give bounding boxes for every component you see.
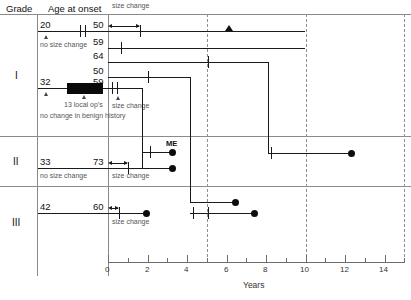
row-6-event-dot	[169, 149, 176, 156]
gridline-year-5	[207, 14, 208, 262]
x-minor-tick-7	[246, 258, 247, 262]
row-1-pre-tick-a	[80, 25, 81, 37]
row-1-size-change-arrow	[110, 26, 139, 27]
timeline-chart: Grade Age at onset I II III 20 50 no siz…	[0, 0, 411, 300]
x-tick-4	[187, 255, 188, 262]
row-5-local-operations-bar	[67, 83, 103, 94]
grade-separator-i-ii	[0, 136, 411, 137]
row-4-second-age: 50	[93, 65, 104, 76]
x-tick-label-6: 6	[224, 265, 228, 274]
grade-separator-top	[0, 14, 411, 15]
x-minor-tick-15	[404, 258, 405, 262]
row-5-onset-age: 32	[40, 76, 51, 87]
row-5-pre-tick-a	[112, 82, 113, 94]
row-9-followup-line	[190, 202, 233, 203]
age-column-header: Age at onset	[48, 3, 101, 14]
x-tick-10	[306, 255, 307, 262]
grade-label-i: I	[15, 70, 18, 81]
row-5-ops-arrow-icon	[82, 95, 86, 99]
x-tick-label-0: 0	[105, 265, 109, 274]
x-tick-6	[227, 255, 228, 262]
row-11-tick	[193, 207, 194, 219]
x-tick-label-2: 2	[145, 265, 149, 274]
row-3-drop-line	[268, 62, 269, 154]
row-10-event-dot	[143, 210, 150, 217]
x-minor-tick-13	[365, 258, 366, 262]
x-tick-label-4: 4	[184, 265, 188, 274]
row-1-onset-age: 20	[40, 19, 51, 30]
x-tick-2	[148, 255, 149, 262]
row-2-post-tick	[121, 42, 122, 54]
row-1-note-arrow-icon	[44, 35, 48, 39]
x-minor-tick-5	[207, 258, 208, 262]
x-minor-tick-1	[128, 258, 129, 262]
row-8-tick	[271, 147, 272, 159]
row-1-age-line	[38, 31, 108, 32]
row-3-post-tick	[208, 56, 209, 68]
row-1-pre-tick-b	[85, 25, 86, 37]
row-3-followup-line	[108, 62, 269, 63]
row-5-pre-tick-b	[117, 82, 118, 94]
row-5-followup-line	[108, 88, 142, 89]
x-minor-tick-3	[167, 258, 168, 262]
row-4-drop-line	[190, 77, 191, 202]
row-2-second-age: 59	[93, 36, 104, 47]
x-axis-line	[108, 262, 405, 263]
row-4-followup-line	[108, 77, 190, 78]
row-5-note: no change in benign history	[40, 112, 106, 120]
row-10-size-change-arrowhead-left	[108, 206, 112, 210]
grade-label-ii: II	[13, 156, 19, 167]
row-7-age-line	[38, 168, 108, 169]
row-10-second-age: 60	[93, 201, 104, 212]
row-5-note-arrow-icon	[44, 92, 48, 96]
size-change-label-2: size change	[112, 102, 146, 110]
x-tick-label-12: 12	[340, 265, 349, 274]
x-tick-12	[345, 255, 346, 262]
row-4-post-tick	[148, 71, 149, 83]
size-change-label-4: size change	[112, 218, 146, 226]
gridline-year-10	[306, 14, 307, 262]
x-tick-label-14: 14	[379, 265, 388, 274]
row-1-post-tick	[140, 25, 141, 37]
x-tick-label-10: 10	[300, 265, 309, 274]
size-change-label-3: size change	[112, 172, 146, 180]
row-10-followup-line	[108, 213, 146, 214]
me-label: ME	[166, 139, 177, 148]
row-8-followup-line	[268, 153, 349, 154]
size-change-label-1: size change	[112, 2, 144, 10]
grade-column-divider	[37, 14, 38, 276]
row-5-size-change-arrow-icon	[116, 96, 120, 100]
x-axis-title: Years	[243, 280, 264, 290]
grade-label-iii: III	[12, 217, 20, 228]
row-7-followup-line	[108, 168, 173, 169]
row-11-followup-line	[190, 213, 252, 214]
age-column-divider	[108, 14, 109, 276]
row-1-followup-line	[108, 31, 305, 32]
row-1-size-change-arrowhead-left	[108, 24, 112, 28]
row-7-second-age: 73	[93, 156, 104, 167]
x-tick-0	[108, 255, 109, 262]
row-9-event-dot	[232, 199, 239, 206]
x-minor-tick-9	[286, 258, 287, 262]
row-7-event-dot	[169, 165, 176, 172]
gridline-year-15	[404, 14, 405, 262]
x-tick-14	[385, 255, 386, 262]
row-7-size-change-arrowhead-left	[108, 161, 112, 165]
x-tick-label-8: 8	[263, 265, 267, 274]
row-6-tick	[150, 146, 151, 158]
row-7-note: no size change	[40, 172, 108, 180]
grade-column-header: Grade	[6, 3, 32, 14]
x-minor-tick-11	[325, 258, 326, 262]
row-10-onset-age: 42	[40, 201, 51, 212]
row-11-event-dot	[251, 210, 258, 217]
row-8-event-dot	[348, 150, 355, 157]
row-5-drop-line	[142, 88, 143, 168]
row-11-tick-b	[208, 207, 209, 219]
row-10-age-line	[38, 213, 108, 214]
row-2-followup-line	[108, 48, 305, 49]
row-1-triangle-marker	[225, 25, 233, 31]
row-1-second-age: 50	[93, 19, 104, 30]
grade-separator-ii-iii	[0, 186, 411, 187]
row-3-second-age: 64	[93, 50, 104, 61]
x-tick-8	[266, 255, 267, 262]
